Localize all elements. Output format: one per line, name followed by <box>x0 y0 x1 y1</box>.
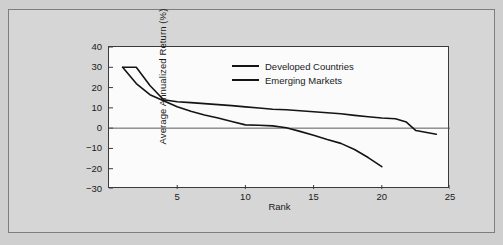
plot-area: 403020100−10−20−30 510152025 Developed C… <box>108 46 449 188</box>
legend-label: Developed Countries <box>265 61 354 72</box>
legend-line-swatch-icon <box>232 65 259 67</box>
y-axis-tick-label: 0 <box>68 123 102 133</box>
y-axis-tick-label: 40 <box>68 42 102 52</box>
y-axis-tick-label: −30 <box>68 184 102 194</box>
chart-page: 403020100−10−20−30 510152025 Developed C… <box>0 0 503 245</box>
legend-item-emerging-markets: Emerging Markets <box>232 74 354 86</box>
y-axis-tick-label: 30 <box>68 62 102 72</box>
figure-frame: 403020100−10−20−30 510152025 Developed C… <box>8 9 495 233</box>
y-axis-tick-label: −20 <box>68 164 102 174</box>
y-axis-tick-label: 10 <box>68 103 102 113</box>
x-axis-title: Rank <box>109 201 450 212</box>
chart-legend: Developed Countries Emerging Markets <box>232 60 354 88</box>
y-axis-tick-label: −10 <box>68 143 102 153</box>
y-axis-tick-label: 20 <box>68 83 102 93</box>
legend-label: Emerging Markets <box>265 75 342 86</box>
y-axis-title: Average Annualized Return (%) <box>157 0 168 157</box>
legend-item-developed-countries: Developed Countries <box>232 60 354 72</box>
legend-line-swatch-icon <box>232 79 259 81</box>
